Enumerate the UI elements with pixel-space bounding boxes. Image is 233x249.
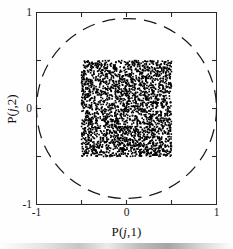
x-axis-label-suffix: ,1) <box>127 224 141 239</box>
scan-artifact-strip <box>0 243 233 249</box>
y-axis-label: P(j,2) <box>4 61 20 157</box>
scatter-plot-figure: 10-1 -101 P(j,1) P(j,2) <box>0 0 233 249</box>
x-axis-label-prefix: P( <box>112 224 124 239</box>
x-axis-label: P(j,1) <box>36 224 217 240</box>
y-axis-label-prefix: P( <box>4 112 19 124</box>
x-tick-label: 0 <box>124 207 130 219</box>
y-tick-label: 0 <box>26 103 32 115</box>
scatter-points-group <box>81 60 173 157</box>
y-tick-label: -1 <box>22 199 32 211</box>
y-tick-label: 1 <box>26 7 32 19</box>
y-axis-label-variable: j <box>4 108 19 112</box>
y-axis-label-suffix: ,2) <box>4 94 19 108</box>
plot-canvas <box>36 12 217 205</box>
x-tick-label: -1 <box>32 207 42 219</box>
plot-area <box>36 12 217 205</box>
x-tick-label: 1 <box>214 207 220 219</box>
